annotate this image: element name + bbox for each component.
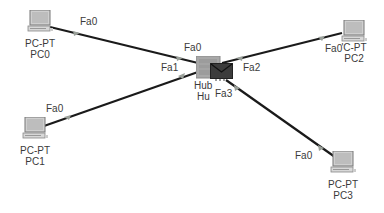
pc1-name-label: PC1 bbox=[10, 156, 60, 167]
hub-port-fa0-label: Fa0 bbox=[184, 42, 201, 53]
link-indicator-pc0-side bbox=[73, 31, 80, 36]
link-pc0-hub[interactable] bbox=[50, 27, 198, 63]
hub-port-fa3-label: Fa3 bbox=[215, 88, 232, 99]
pdu-envelope-icon[interactable] bbox=[210, 63, 234, 81]
pc0-port-label: Fa0 bbox=[80, 16, 97, 27]
pc-icon bbox=[330, 151, 356, 175]
pc2-device[interactable] bbox=[341, 20, 367, 44]
pc3-device[interactable] bbox=[330, 151, 356, 175]
pc1-model-label: PC-PT bbox=[10, 145, 60, 156]
pc2-name-label: PC2 bbox=[329, 53, 379, 64]
hub-name-label: Hu bbox=[197, 91, 210, 102]
pc3-port-label: Fa0 bbox=[295, 150, 312, 161]
topology-canvas[interactable]: PC-PT PC0 Fa0 PC-PT PC1 Fa0 'C-PT PC2 Fa… bbox=[0, 0, 384, 213]
pc2-port-label: Fa0 bbox=[325, 43, 342, 54]
pc1-device[interactable] bbox=[22, 117, 48, 141]
hub-port-fa1-label: Fa1 bbox=[161, 62, 178, 73]
pc-icon bbox=[22, 117, 48, 141]
hub-model-label: Hub bbox=[194, 80, 212, 91]
link-indicator-hub-fa0 bbox=[176, 56, 183, 61]
pc0-model-label: PC-PT bbox=[15, 38, 65, 49]
pc3-model-label: PC-PT bbox=[318, 179, 368, 190]
pc-icon bbox=[341, 20, 367, 44]
pc0-device[interactable] bbox=[27, 10, 53, 34]
pc1-port-label: Fa0 bbox=[46, 103, 63, 114]
pc3-name-label: PC3 bbox=[318, 190, 368, 201]
hub-port-fa2-label: Fa2 bbox=[243, 62, 260, 73]
pc0-name-label: PC0 bbox=[15, 49, 65, 60]
pc-icon bbox=[27, 10, 53, 34]
